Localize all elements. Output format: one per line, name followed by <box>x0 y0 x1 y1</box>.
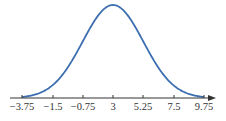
tick-label: −1.5 <box>43 101 62 112</box>
tick-label: −0.75 <box>71 101 95 112</box>
tick-label: 3 <box>110 101 115 112</box>
bell-curve <box>22 5 204 97</box>
tick-label: −3.75 <box>10 101 34 112</box>
tick-label: 7.5 <box>167 101 180 112</box>
tick-label: 5.25 <box>134 101 152 112</box>
tick-label: 9.75 <box>195 101 213 112</box>
